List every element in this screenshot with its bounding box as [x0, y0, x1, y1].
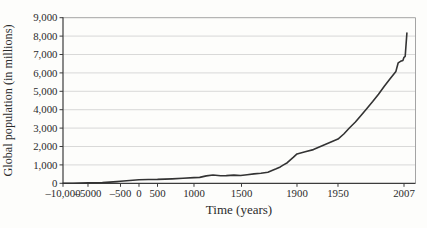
x-tick-label: –5000 [73, 187, 101, 199]
x-tick-label: 2007 [393, 187, 415, 199]
population-chart: 01,0002,0003,0004,0005,0006,0007,0008,00… [0, 0, 427, 228]
tick-labels: 01,0002,0003,0004,0005,0006,0007,0008,00… [33, 11, 415, 199]
y-tick-label: 9,000 [33, 11, 57, 23]
y-tick-label: 5,000 [33, 85, 57, 97]
x-tick-label: 1000 [183, 187, 205, 199]
x-axis-title: Time (years) [206, 202, 272, 217]
x-tick-label: –500 [109, 187, 132, 199]
population-line [63, 33, 407, 183]
y-tick-label: 4,000 [33, 103, 57, 115]
x-tick-label: 1900 [286, 187, 308, 199]
population-figure: 01,0002,0003,0004,0005,0006,0007,0008,00… [0, 0, 427, 228]
y-tick-label: 7,000 [33, 48, 57, 60]
y-tick-label: 3,000 [33, 122, 57, 134]
x-tick-label: 1950 [327, 187, 349, 199]
x-tick-label: 1500 [231, 187, 253, 199]
y-axis-title: Global population (in millions) [1, 25, 15, 177]
y-tick-label: 8,000 [33, 30, 57, 42]
axis-ticks [60, 18, 405, 187]
y-tick-label: 6,000 [33, 67, 57, 79]
x-tick-label: 500 [149, 187, 165, 199]
population-curve [63, 33, 407, 183]
y-tick-label: 2,000 [33, 140, 57, 152]
gridlines [63, 36, 416, 165]
plot-frame [63, 17, 416, 183]
x-tick-label: 0 [136, 187, 141, 199]
y-tick-label: 1,000 [33, 159, 57, 171]
